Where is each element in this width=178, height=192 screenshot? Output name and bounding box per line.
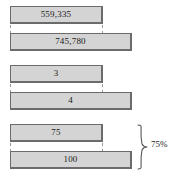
- bar-bottom-group-2: 4: [10, 92, 132, 110]
- diagram-canvas: 559,335 745,780 3 4 75 100: [0, 0, 178, 192]
- bar-bottom-group-3: 100: [10, 151, 132, 169]
- bar-label-bottom-group-3: 100: [63, 155, 77, 164]
- bar-label-top-group-3: 75: [51, 128, 60, 137]
- bar-top-group-1: 559,335: [10, 6, 103, 24]
- bar-label-bottom-group-2: 4: [68, 96, 73, 105]
- bar-label-bottom-group-1: 745,780: [55, 37, 86, 46]
- annotation-group-3: 75%: [134, 124, 178, 170]
- bar-top-group-2: 3: [10, 65, 103, 83]
- bar-bottom-group-1: 745,780: [10, 33, 132, 51]
- bar-label-top-group-1: 559,335: [41, 10, 72, 19]
- bar-label-top-group-2: 3: [54, 69, 59, 78]
- annotation-label-group-3: 75%: [151, 140, 168, 149]
- bar-top-group-3: 75: [10, 124, 103, 142]
